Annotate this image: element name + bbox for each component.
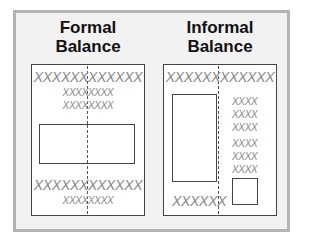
informal-balance-title: Informal Balance — [163, 18, 277, 56]
subtext-line: XXXXXXXX — [33, 87, 143, 98]
side-item: XXXX — [232, 109, 257, 120]
center-axis-over-image — [87, 125, 88, 163]
tall-image-block — [172, 94, 217, 182]
side-item: XXXX — [232, 151, 257, 162]
side-item: XXXX — [232, 138, 257, 149]
side-item: XXXX — [232, 164, 257, 175]
headline-text: XXXXXXXXXXXX — [165, 69, 275, 85]
footer-text: XXXXXX — [172, 193, 226, 209]
title-line: Formal — [31, 18, 145, 37]
center-axis — [218, 66, 219, 214]
title-line: Informal — [163, 18, 277, 37]
title-line: Balance — [31, 37, 145, 56]
subtext-line: XXXXXXXX — [33, 100, 143, 111]
formal-balance-title: Formal Balance — [31, 18, 145, 56]
footer-subtext: XXXXXXXX — [33, 195, 143, 206]
side-item: XXXX — [232, 122, 257, 133]
title-line: Balance — [163, 37, 277, 56]
footer-headline-text: XXXXXXXXXXXX — [33, 177, 143, 193]
side-item: XXXX — [232, 96, 257, 107]
headline-text: XXXXXXXXXXXX — [33, 69, 143, 85]
small-image-block — [232, 178, 258, 205]
